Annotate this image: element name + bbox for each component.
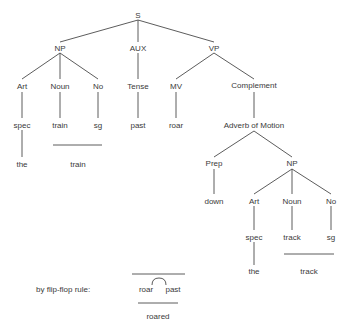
edge-np-art (22, 53, 60, 79)
flipflop-left: roar (139, 285, 154, 294)
edge-adverb-prep (214, 131, 254, 157)
node-train-merged: train (70, 160, 86, 169)
node-np-2: NP (286, 159, 297, 168)
node-sg-2: sg (327, 233, 335, 242)
node-vp: VP (209, 44, 220, 53)
node-adverb-of-motion: Adverb of Motion (224, 121, 284, 130)
node-no-2: No (326, 197, 337, 206)
flipflop-result: roared (146, 312, 169, 321)
node-spec: spec (14, 121, 31, 130)
node-art-2: Art (249, 197, 260, 206)
node-spec-2: spec (246, 233, 263, 242)
node-no: No (93, 82, 104, 91)
node-roar: roar (169, 121, 184, 130)
node-train: train (52, 121, 68, 130)
node-prep: Prep (206, 159, 223, 168)
node-s: S (135, 11, 140, 20)
node-the: the (16, 160, 28, 169)
node-past: past (130, 121, 146, 130)
node-track-merged: track (300, 267, 318, 276)
edge-vp-complement (214, 53, 254, 79)
node-noun: Noun (50, 82, 69, 91)
edge-np2-art (254, 169, 292, 194)
node-aux: AUX (130, 44, 147, 53)
flipflop-right: past (165, 285, 181, 294)
node-sg: sg (94, 121, 102, 130)
node-track: track (283, 233, 301, 242)
edge-np2-no (292, 169, 331, 194)
node-tense: Tense (127, 82, 149, 91)
edge-adverb-np (254, 131, 292, 157)
node-np: NP (54, 44, 65, 53)
edge-s-vp (138, 20, 214, 42)
edge-s-np (60, 20, 138, 42)
flipflop-swap-arc-icon (152, 278, 166, 285)
node-down: down (204, 197, 223, 206)
syntax-tree-diagram: S NP AUX VP Art Noun No Tense MV Complem… (0, 0, 350, 326)
flipflop-caption: by flip-flop rule: (36, 285, 90, 294)
node-complement: Complement (231, 81, 277, 90)
edge-np-no (60, 53, 98, 79)
node-mv: MV (170, 82, 183, 91)
edge-vp-mv (176, 53, 214, 79)
node-art: Art (17, 82, 28, 91)
node-noun-2: Noun (282, 197, 301, 206)
node-the-2: the (248, 267, 260, 276)
